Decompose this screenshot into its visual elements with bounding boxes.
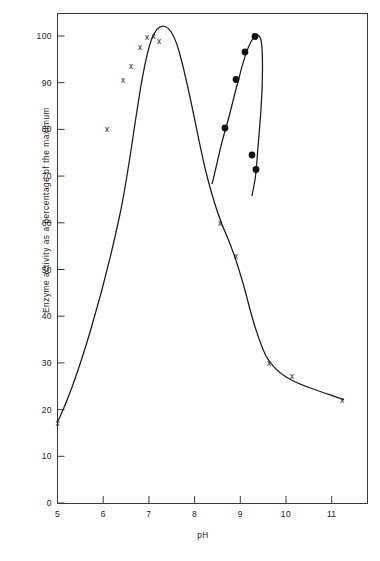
data-point-marker: x xyxy=(105,125,109,134)
data-point-marker: x xyxy=(267,359,271,368)
y-tick-label: 100 xyxy=(37,31,52,41)
data-point-marker xyxy=(233,76,240,83)
data-point-marker xyxy=(253,166,260,173)
x-axis-title: pH xyxy=(0,530,380,540)
x-tick-label: 9 xyxy=(238,509,243,519)
x-tick-label: 8 xyxy=(192,509,197,519)
y-tick-label: 20 xyxy=(42,405,52,415)
x-tick-label: 6 xyxy=(101,509,106,519)
data-point-marker: x xyxy=(218,219,222,228)
x-tick-label: 10 xyxy=(281,509,291,519)
data-point-marker: x xyxy=(145,33,149,42)
y-axis-title: Enzyme activity as a percentage of the m… xyxy=(41,60,51,360)
data-point-marker: x xyxy=(121,76,125,85)
data-point-marker: x xyxy=(157,37,161,46)
chart-figure: Enzyme activity as a percentage of the m… xyxy=(0,0,380,561)
data-point-marker: x xyxy=(290,372,294,381)
x-axis-tick-labels: 5 6 7 8 9 10 11 xyxy=(55,509,337,519)
data-point-marker: x xyxy=(234,252,238,261)
x-tick-label: 5 xyxy=(55,509,60,519)
x-tick-label: 7 xyxy=(146,509,151,519)
y-tick-label: 0 xyxy=(47,498,52,508)
data-point-marker: x xyxy=(151,32,155,41)
data-point-marker: x xyxy=(129,62,133,71)
data-point-marker: x xyxy=(138,43,142,52)
x-axis-title-text: pH xyxy=(197,530,209,540)
data-point-marker: x xyxy=(340,396,344,405)
x-tick-label: 11 xyxy=(327,509,337,519)
data-point-marker xyxy=(252,33,259,40)
y-tick-label: 10 xyxy=(42,451,52,461)
plot-frame xyxy=(58,14,368,504)
data-point-marker xyxy=(242,49,249,56)
chart-canvas: 0 10 20 30 40 50 60 70 80 90 100 5 6 7 xyxy=(0,0,380,561)
data-point-marker xyxy=(249,152,256,159)
data-point-marker xyxy=(222,125,229,132)
data-point-marker: x xyxy=(55,419,59,428)
